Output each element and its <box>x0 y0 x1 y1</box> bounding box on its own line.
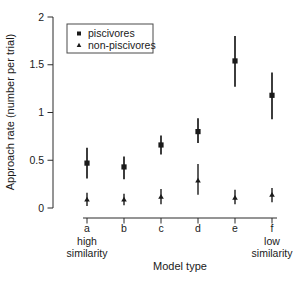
non-piscivores-marker-triangle <box>195 178 201 183</box>
piscivores-marker-square <box>121 164 126 169</box>
non-piscivores-marker-triangle <box>158 194 164 199</box>
non-piscivores-marker-triangle <box>84 197 90 202</box>
legend-label: piscivores <box>88 27 135 39</box>
x-tick-label: a <box>84 222 90 234</box>
piscivores-marker-square <box>195 129 200 134</box>
x-tick-label: c <box>158 222 163 234</box>
legend-marker-square <box>77 32 81 36</box>
y-tick-label: 2 <box>38 11 44 23</box>
x-tick-label: b <box>121 222 127 234</box>
piscivores-marker-square <box>269 93 274 98</box>
x-axis-title: Model type <box>153 260 207 272</box>
y-axis-title: Approach rate (number per trial) <box>4 34 16 191</box>
non-piscivores-marker-triangle <box>269 192 275 197</box>
x-sublabel-high: high <box>77 235 97 247</box>
non-piscivores-marker-triangle <box>232 195 238 200</box>
y-tick-label: 0.5 <box>29 154 44 166</box>
y-tick-label: 1 <box>38 106 44 118</box>
figure-panel: 00.511.52abcdefhighsimilaritylowsimilari… <box>0 0 304 282</box>
y-tick-label: 0 <box>38 202 44 214</box>
piscivores-marker-square <box>232 58 237 63</box>
piscivores-marker-square <box>84 161 89 166</box>
x-sublabel-low: similarity <box>252 247 294 259</box>
piscivores-marker-square <box>158 142 163 147</box>
x-tick-label: d <box>195 222 201 234</box>
legend-marker-triangle <box>77 43 82 47</box>
y-tick-label: 1.5 <box>29 58 44 70</box>
x-sublabel-high: similarity <box>67 247 109 259</box>
x-tick-label: e <box>232 222 238 234</box>
x-tick-label: f <box>271 222 274 234</box>
errorbar-chart: 00.511.52abcdefhighsimilaritylowsimilari… <box>0 0 304 282</box>
non-piscivores-marker-triangle <box>121 197 127 202</box>
legend-label: non-piscivores <box>88 39 156 51</box>
x-sublabel-low: low <box>264 235 280 247</box>
